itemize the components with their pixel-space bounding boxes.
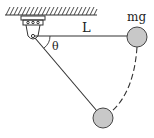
- label-angle: θ: [52, 40, 59, 53]
- angle-arc: [44, 36, 50, 48]
- ball-bottom: [93, 108, 113, 128]
- ceiling: [5, 7, 97, 15]
- pendulum-diagram: L mg θ: [0, 0, 154, 138]
- rod-angled: [35, 38, 97, 111]
- swing-path: [111, 47, 137, 112]
- pivot-point: [31, 34, 34, 37]
- label-length: L: [82, 20, 91, 35]
- label-weight: mg: [127, 10, 146, 24]
- ball-top: [127, 27, 147, 47]
